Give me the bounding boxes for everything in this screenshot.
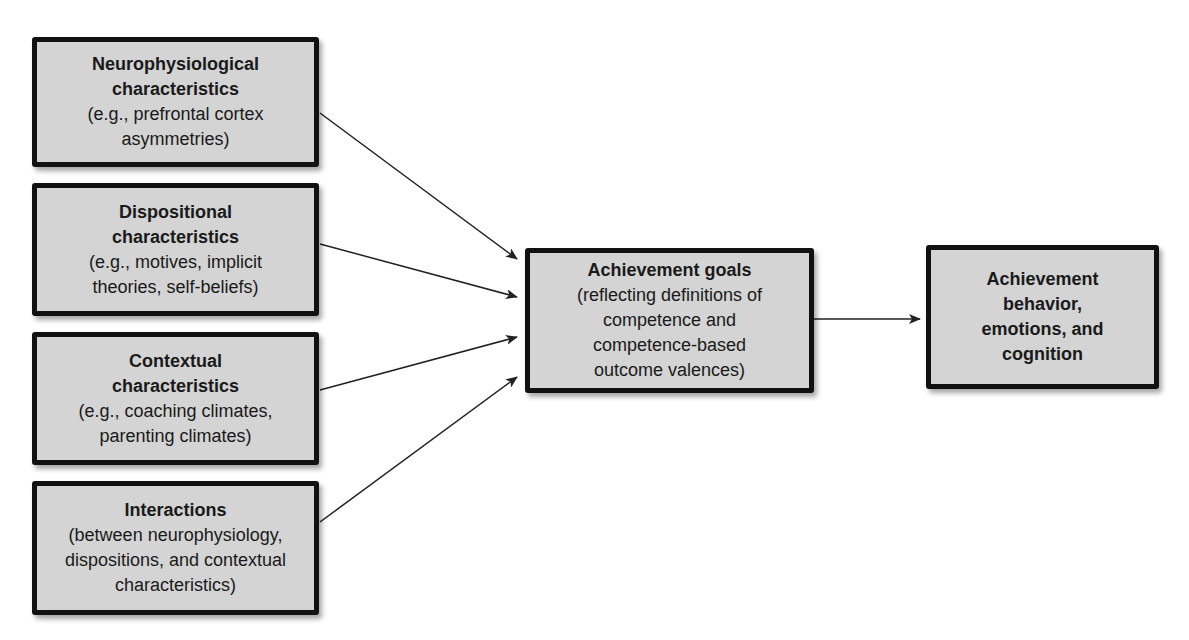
interactions-box: Interactions (between neurophysiology, d… [32, 481, 319, 615]
arrow-dispositional-to-goals [320, 244, 517, 297]
box-description: (e.g., coaching climates, parenting clim… [78, 399, 272, 449]
dispositional-characteristics-box: Dispositional characteristics (e.g., mot… [32, 183, 319, 316]
box-title: Dispositional characteristics [112, 200, 239, 250]
box-description: (reflecting definitions of competence an… [577, 283, 762, 383]
neurophysiological-characteristics-box: Neurophysiological characteristics (e.g.… [32, 37, 319, 167]
achievement-outcomes-box: Achievement behavior, emotions, and cogn… [926, 245, 1159, 389]
box-title: Interactions [124, 498, 226, 523]
box-title: Contextual characteristics [112, 349, 239, 399]
arrow-interactions-to-goals [320, 377, 517, 522]
contextual-characteristics-box: Contextual characteristics (e.g., coachi… [32, 332, 319, 465]
achievement-goals-box: Achievement goals (reflecting definition… [525, 248, 814, 393]
box-description: (between neurophysiology, dispositions, … [65, 523, 286, 598]
box-title: Achievement behavior, emotions, and cogn… [981, 267, 1103, 367]
arrow-contextual-to-goals [320, 337, 517, 390]
box-title: Neurophysiological characteristics [92, 52, 259, 102]
box-description: (e.g., motives, implicit theories, self-… [89, 250, 262, 300]
box-title: Achievement goals [587, 258, 751, 283]
box-description: (e.g., prefrontal cortex asymmetries) [87, 102, 263, 152]
arrow-neurophysiological-to-goals [320, 113, 517, 259]
